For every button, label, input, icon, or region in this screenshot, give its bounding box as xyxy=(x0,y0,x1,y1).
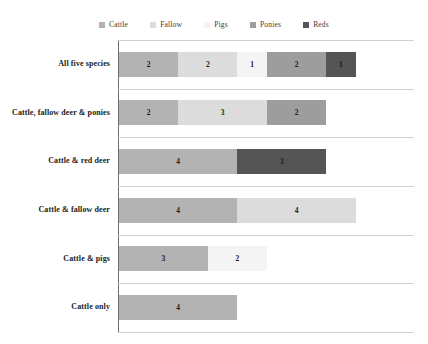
legend-item-fallow[interactable]: Fallow xyxy=(150,21,182,29)
bar-track: 22121 xyxy=(119,52,418,77)
bar-segment-value: 2 xyxy=(236,255,240,263)
bar-segment-value: 1 xyxy=(250,61,254,69)
bar-row: 32 xyxy=(119,235,418,284)
legend-label: Ponies xyxy=(260,21,281,29)
bar-segment-fallow[interactable]: 2 xyxy=(178,52,237,77)
category-label-4: Cattle & pigs xyxy=(0,235,112,284)
bar-segment-cattle[interactable]: 3 xyxy=(119,246,208,271)
category-label-5: Cattle only xyxy=(0,283,112,332)
bar-segment-value: 4 xyxy=(295,207,299,215)
legend-item-cattle[interactable]: Cattle xyxy=(99,21,128,29)
bar-segment-value: 4 xyxy=(176,207,180,215)
bar-segment-value: 4 xyxy=(176,158,180,166)
category-label-3: Cattle & fallow deer xyxy=(0,186,112,235)
legend-item-reds[interactable]: Reds xyxy=(303,21,329,29)
bar-segment-cattle[interactable]: 4 xyxy=(119,149,237,174)
bar-segment-value: 2 xyxy=(295,109,299,117)
legend-swatch-icon xyxy=(204,22,210,28)
bar-track: 232 xyxy=(119,100,418,125)
bar-segment-value: 2 xyxy=(147,109,151,117)
category-axis-labels: All five speciesCattle, fallow deer & po… xyxy=(0,40,112,332)
legend-swatch-icon xyxy=(99,22,105,28)
bar-segment-value: 3 xyxy=(162,255,166,263)
category-label-0: All five species xyxy=(0,40,112,89)
category-label-2: Cattle & red deer xyxy=(0,137,112,186)
bar-segment-cattle[interactable]: 4 xyxy=(119,198,237,223)
grid-line xyxy=(118,332,414,333)
category-label-1: Cattle, fallow deer & ponies xyxy=(0,89,112,138)
bar-row: 22121 xyxy=(119,40,418,89)
bar-segment-value: 3 xyxy=(221,109,225,117)
bar-segment-fallow[interactable]: 3 xyxy=(178,100,267,125)
bar-segment-value: 4 xyxy=(176,304,180,312)
bar-segment-value: 2 xyxy=(295,61,299,69)
legend-label: Pigs xyxy=(214,21,228,29)
bar-segment-cattle[interactable]: 2 xyxy=(119,100,178,125)
bar-segment-value: 2 xyxy=(147,61,151,69)
bar-segment-cattle[interactable]: 4 xyxy=(119,295,237,320)
bar-segment-value: 3 xyxy=(280,158,284,166)
bar-segment-pigs[interactable]: 2 xyxy=(208,246,267,271)
chart-legend: CattleFallowPigsPoniesReds xyxy=(0,18,428,32)
bar-segment-pigs[interactable]: 1 xyxy=(237,52,267,77)
bar-row: 232 xyxy=(119,89,418,138)
bar-segment-fallow[interactable]: 4 xyxy=(237,198,355,223)
legend-swatch-icon xyxy=(150,22,156,28)
stacked-bar-chart: CattleFallowPigsPoniesReds All five spec… xyxy=(0,0,428,344)
legend-label: Cattle xyxy=(109,21,128,29)
legend-label: Reds xyxy=(313,21,329,29)
bar-track: 43 xyxy=(119,149,418,174)
bar-track: 32 xyxy=(119,246,418,271)
bar-segment-reds[interactable]: 1 xyxy=(326,52,356,77)
legend-swatch-icon xyxy=(250,22,256,28)
plot-area: 221212324344324 xyxy=(118,40,418,332)
legend-label: Fallow xyxy=(160,21,182,29)
bar-rows: 221212324344324 xyxy=(119,40,418,332)
bar-row: 43 xyxy=(119,137,418,186)
bar-row: 4 xyxy=(119,283,418,332)
legend-item-pigs[interactable]: Pigs xyxy=(204,21,228,29)
bar-segment-cattle[interactable]: 2 xyxy=(119,52,178,77)
bar-segment-reds[interactable]: 3 xyxy=(237,149,326,174)
legend-swatch-icon xyxy=(303,22,309,28)
bar-row: 44 xyxy=(119,186,418,235)
bar-segment-value: 1 xyxy=(339,61,343,69)
legend-item-ponies[interactable]: Ponies xyxy=(250,21,281,29)
bar-segment-value: 2 xyxy=(206,61,210,69)
bar-segment-ponies[interactable]: 2 xyxy=(267,100,326,125)
bar-track: 4 xyxy=(119,295,418,320)
bar-segment-ponies[interactable]: 2 xyxy=(267,52,326,77)
bar-track: 44 xyxy=(119,198,418,223)
